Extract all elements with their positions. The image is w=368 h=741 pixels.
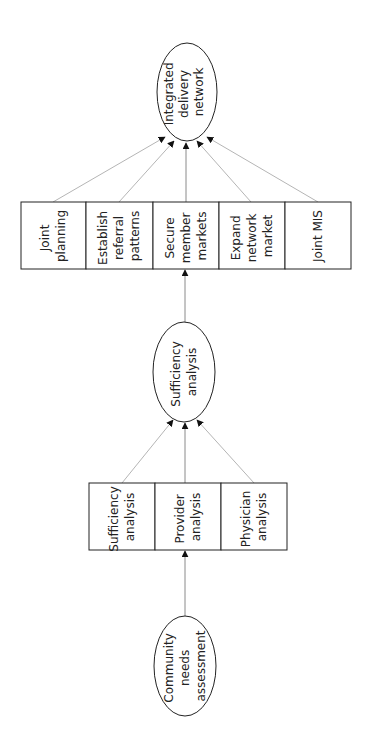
node-establish-referral-patterns: Establish referral patterns — [86, 202, 153, 269]
node-sufficiency-analysis-box: Sufficiency analysis — [89, 482, 155, 551]
bottom-box-row: Sufficiency analysis Provider analysis P… — [89, 482, 287, 551]
edge-establish-referral — [119, 141, 174, 202]
node-sufficiency-analysis-ellipse: Sufficiency analysis — [153, 322, 215, 422]
edge-expand-network — [197, 141, 251, 202]
node-label: Expand network market — [229, 210, 275, 263]
connectors-to-sufficiency-ellipse — [122, 420, 254, 483]
node-secure-member-markets: Secure member markets — [153, 202, 219, 269]
node-expand-network-market: Expand network market — [219, 202, 285, 269]
edge-sufficiency-box — [122, 420, 173, 483]
node-label: Joint MIS — [311, 210, 325, 263]
node-integrated-delivery-network: Integrated delivery network — [157, 43, 217, 141]
node-joint-mis: Joint MIS — [285, 202, 351, 269]
node-label: Secure member markets — [163, 209, 209, 264]
edge-physician — [197, 420, 254, 483]
node-physician-analysis: Physician analysis — [221, 483, 287, 550]
top-box-row: Joint planning Establish referral patter… — [21, 202, 351, 269]
node-provider-analysis: Provider analysis — [155, 483, 221, 550]
connectors-to-integrated-network — [53, 137, 318, 202]
edge-joint-mis — [207, 137, 318, 202]
node-label: Establish referral patterns — [96, 207, 142, 265]
node-community-needs-assessment: Community needs assessment — [154, 616, 216, 716]
node-label: Integrated delivery network — [162, 59, 206, 126]
flow-diagram: Integrated delivery network Joint planni… — [0, 0, 368, 741]
node-joint-planning: Joint planning — [21, 202, 86, 269]
